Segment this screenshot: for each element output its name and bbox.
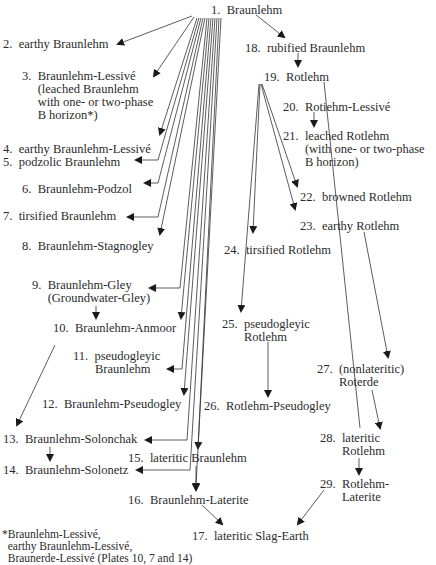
node-11: 11. pseudogleyic Braunlehm xyxy=(73,350,160,376)
node-3: 3. Braunlehm-Lessivé (leached Braunlehm … xyxy=(22,70,153,122)
node-23: 23. earthy Rotlehm xyxy=(300,220,399,233)
edge-19-25 xyxy=(241,84,259,311)
node-15: 15. lateritic Braunlehm xyxy=(128,452,247,465)
node-12: 12. Braunlehm-Pseudogley xyxy=(42,398,181,411)
node-21: 21. leached Rotlehm (with one- or two-ph… xyxy=(283,130,425,169)
edge-27-28 xyxy=(372,390,380,428)
node-2: 2. earthy Braunlehm xyxy=(3,38,109,51)
node-13: 13. Braunlehm-Solonchak xyxy=(3,433,137,446)
edge-1-9 xyxy=(150,18,207,288)
node-24: 24. tirsified Rotlehm xyxy=(224,244,331,257)
node-9: 9. Braunlehm-Gley (Groundwater-Gley) xyxy=(32,279,150,305)
edge-23-27 xyxy=(364,232,388,357)
edge-16-17 xyxy=(202,505,222,524)
node-19: 19. Rotlehm xyxy=(264,71,329,84)
node-5: 5. podzolic Braunlehm xyxy=(3,156,120,169)
node-16: 16. Braunlehm-Laterite xyxy=(128,494,248,507)
edge-1-8 xyxy=(160,18,205,234)
node-14: 14. Braunlehm-Solonetz xyxy=(3,464,128,477)
edge-1-18 xyxy=(256,15,284,37)
node-17: 17. lateritic Slag-Earth xyxy=(192,530,309,543)
node-8: 8. Braunlehm-Stagnogley xyxy=(22,240,154,253)
node-27: 27. (nonlateritic) Roterde xyxy=(317,363,404,389)
edge-10-13 xyxy=(17,345,55,425)
node-10: 10. Braunlehm-Anmoor xyxy=(53,322,176,335)
node-28: 28. lateritic Rotlehm xyxy=(320,432,385,458)
node-29: 29. Rotlehm- Laterite xyxy=(320,478,389,504)
edge-1-4 xyxy=(160,18,197,134)
node-20: 20. Rotiehm-Lessivé xyxy=(283,101,390,114)
node-1: 1. Braunlehm xyxy=(211,4,282,17)
node-18: 18. rubified Braunlehm xyxy=(245,42,365,55)
node-6: 6. Braunlehm-Podzol xyxy=(22,183,132,196)
edge-19-24 xyxy=(253,84,260,232)
node-25: 25. pseudogleyic Rotlehm xyxy=(222,318,310,344)
node-7: 7. tirsified Braunlehm xyxy=(3,210,116,223)
edge-1-2 xyxy=(118,16,192,44)
node-26: 26. Rotlehm-Pseudogley xyxy=(204,400,331,413)
node-22: 22. browned Rotlehm xyxy=(300,191,412,204)
soil-derivation-diagram: 1. Braunlehm 2. earthy Braunlehm 3. Brau… xyxy=(0,0,436,565)
footnote: *Braunlehm-Lessivé, earthy Braunlehm-Les… xyxy=(2,528,192,564)
